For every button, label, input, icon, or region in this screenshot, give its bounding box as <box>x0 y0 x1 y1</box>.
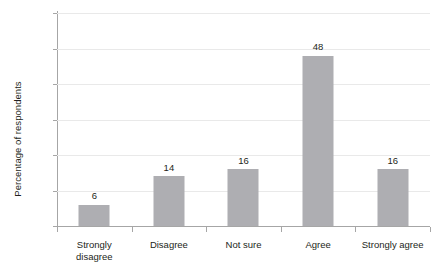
category-label: Strongly agree <box>355 239 430 251</box>
bar-value-label: 16 <box>387 156 398 166</box>
category-label-line: Strongly <box>57 239 132 251</box>
category-label: Agree <box>281 239 356 251</box>
category-label: Disagree <box>132 239 207 251</box>
x-tick-mark <box>132 227 133 232</box>
bar[interactable] <box>228 169 259 226</box>
category-label: Stronglydisagree <box>57 239 132 263</box>
bars-layer: 614164816 <box>57 13 430 226</box>
category-label-line: Disagree <box>132 239 207 251</box>
category-label-line: Strongly agree <box>355 239 430 251</box>
category-label: Not sure <box>206 239 281 251</box>
bar[interactable] <box>79 205 110 226</box>
gridline <box>57 226 430 227</box>
bar-group[interactable]: 14 <box>132 13 207 226</box>
bar-group[interactable]: 6 <box>57 13 132 226</box>
bar-value-label: 48 <box>313 42 324 52</box>
bar[interactable] <box>377 169 408 226</box>
x-tick-mark <box>430 227 431 232</box>
bar-value-label: 14 <box>164 163 175 173</box>
category-label-line: Not sure <box>206 239 281 251</box>
category-label-line: disagree <box>57 251 132 263</box>
x-tick-mark <box>206 227 207 232</box>
plot-area: 0102030405060 614164816 <box>57 13 430 226</box>
bar-group[interactable]: 16 <box>355 13 430 226</box>
bar-value-label: 6 <box>92 191 97 201</box>
bar-chart: Percentage of respondents 0102030405060 … <box>0 0 437 278</box>
x-tick-mark <box>57 227 58 232</box>
category-label-line: Agree <box>281 239 356 251</box>
bar-group[interactable]: 16 <box>206 13 281 226</box>
x-tick-mark <box>355 227 356 232</box>
bar[interactable] <box>153 176 184 226</box>
bar[interactable] <box>303 56 334 226</box>
x-tick-mark <box>281 227 282 232</box>
bar-group[interactable]: 48 <box>281 13 356 226</box>
bar-value-label: 16 <box>238 156 249 166</box>
y-axis-title: Percentage of respondents <box>0 0 34 278</box>
